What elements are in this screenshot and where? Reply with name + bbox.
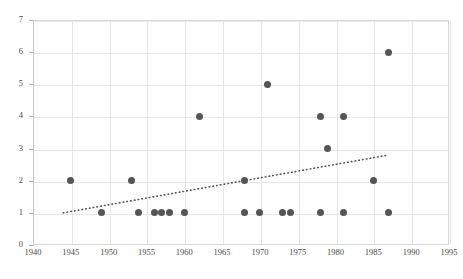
- data-point: [287, 209, 294, 216]
- gridline-horizontal: [34, 85, 448, 86]
- x-tick-label: 1980: [316, 247, 356, 257]
- gridline-vertical: [374, 21, 375, 244]
- y-tick-label: 2: [5, 175, 23, 185]
- x-tick-label: 1975: [278, 247, 318, 257]
- data-point: [166, 209, 173, 216]
- gridline-vertical: [223, 21, 224, 244]
- y-tick-mark: [29, 149, 33, 150]
- gridline-vertical: [147, 21, 148, 244]
- data-point: [385, 49, 392, 56]
- data-point: [196, 113, 203, 120]
- gridline-horizontal: [34, 21, 448, 22]
- y-tick-mark: [29, 181, 33, 182]
- x-tick-label: 1990: [391, 247, 431, 257]
- data-point: [128, 177, 135, 184]
- x-tick-label: 1945: [51, 247, 91, 257]
- data-point: [98, 209, 105, 216]
- scatter-chart: 1940194519501955196019651970197519801985…: [0, 0, 463, 279]
- gridline-vertical: [450, 21, 451, 244]
- y-tick-mark: [29, 213, 33, 214]
- data-point: [317, 113, 324, 120]
- y-tick-mark: [29, 84, 33, 85]
- x-tick-label: 1995: [429, 247, 463, 257]
- y-axis-line: [33, 20, 34, 246]
- data-point: [264, 81, 271, 88]
- data-point: [340, 209, 347, 216]
- x-tick-label: 1955: [126, 247, 166, 257]
- x-tick-label: 1970: [240, 247, 280, 257]
- data-point: [151, 209, 158, 216]
- y-tick-label: 5: [5, 78, 23, 88]
- x-tick-label: 1985: [353, 247, 393, 257]
- y-tick-label: 7: [5, 14, 23, 24]
- x-tick-label: 1960: [164, 247, 204, 257]
- gridline-vertical: [72, 21, 73, 244]
- gridline-vertical: [337, 21, 338, 244]
- y-tick-mark: [29, 52, 33, 53]
- x-tick-label: 1965: [202, 247, 242, 257]
- y-tick-label: 6: [5, 46, 23, 56]
- gridline-vertical: [110, 21, 111, 244]
- y-tick-mark: [29, 20, 33, 21]
- data-point: [370, 177, 377, 184]
- gridline-horizontal: [34, 150, 448, 151]
- y-tick-mark: [29, 116, 33, 117]
- y-tick-mark: [29, 245, 33, 246]
- gridline-horizontal: [34, 117, 448, 118]
- y-tick-label: 0: [5, 239, 23, 249]
- y-tick-label: 3: [5, 143, 23, 153]
- data-point: [340, 113, 347, 120]
- gridline-vertical: [299, 21, 300, 244]
- x-tick-label: 1950: [89, 247, 129, 257]
- y-tick-label: 1: [5, 207, 23, 217]
- y-tick-label: 4: [5, 110, 23, 120]
- gridline-vertical: [412, 21, 413, 244]
